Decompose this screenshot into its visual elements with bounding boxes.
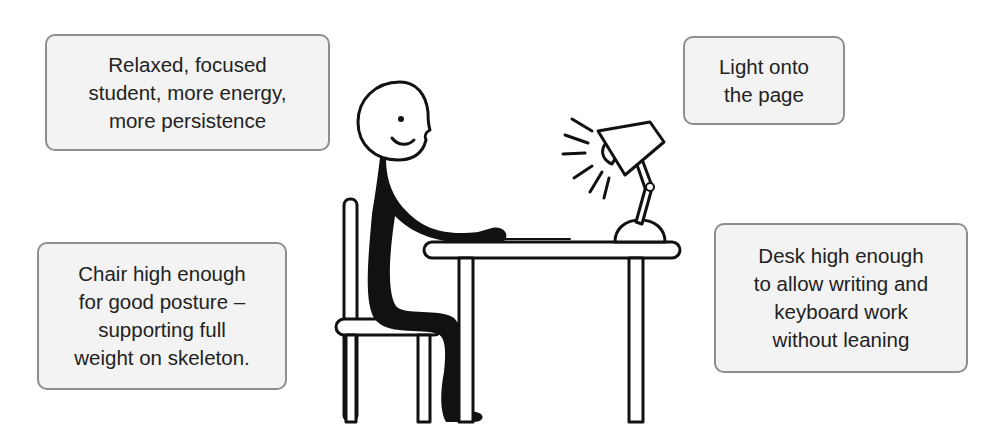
desk-icon (424, 239, 680, 422)
study-posture-illustration (0, 0, 998, 445)
